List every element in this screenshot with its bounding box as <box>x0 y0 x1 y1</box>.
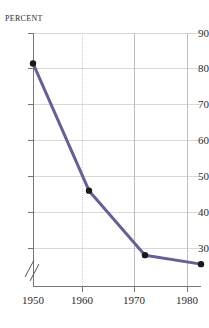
series-line-percent <box>33 63 201 264</box>
data-point-1980 <box>198 261 204 267</box>
data-point-1970 <box>142 252 148 258</box>
chart-figure: Percent 90 80 70 60 50 40 30 1950 1960 1… <box>0 0 209 328</box>
data-point-1960 <box>86 187 92 193</box>
data-series-layer <box>0 0 209 328</box>
data-point-1950 <box>30 60 36 66</box>
series-markers <box>30 60 204 267</box>
